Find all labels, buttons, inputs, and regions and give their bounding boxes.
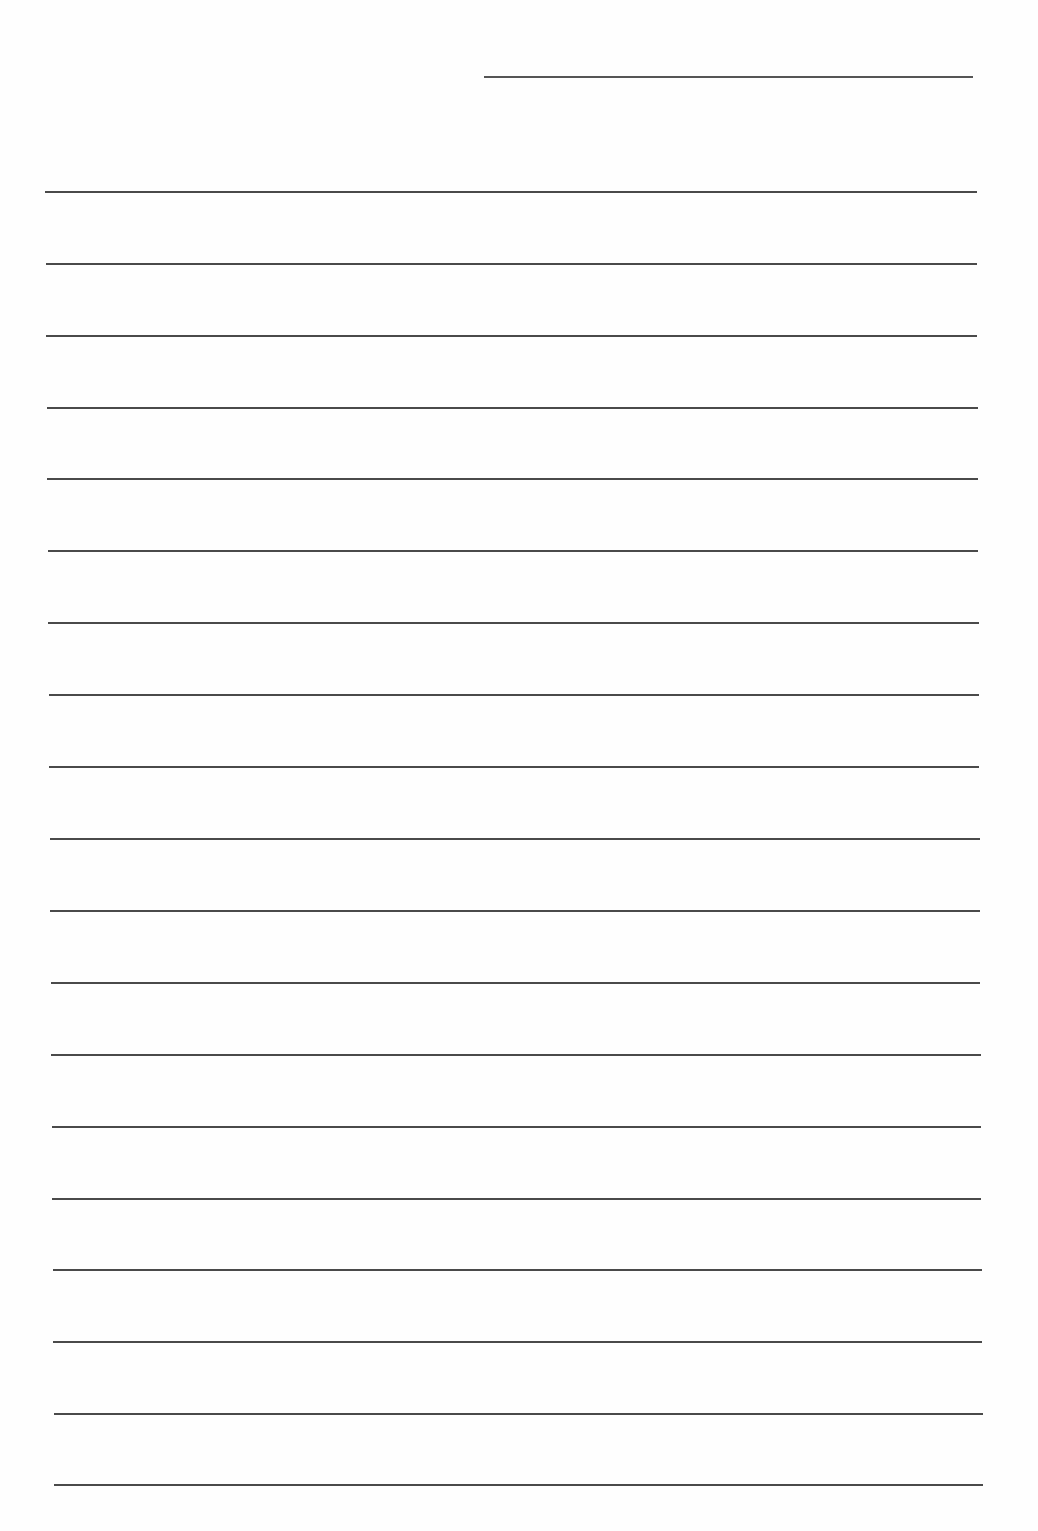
rule-line bbox=[50, 910, 980, 912]
rule-line bbox=[54, 1484, 983, 1486]
rule-line bbox=[53, 1269, 982, 1271]
rule-line bbox=[51, 982, 980, 984]
rule-line bbox=[48, 622, 979, 624]
rule-line bbox=[47, 407, 978, 409]
rule-line bbox=[49, 766, 979, 768]
rule-line bbox=[52, 1198, 981, 1200]
header-rule-line bbox=[484, 76, 973, 78]
rule-line bbox=[50, 838, 980, 840]
rule-line bbox=[54, 1413, 983, 1415]
rule-line bbox=[46, 263, 977, 265]
rule-line bbox=[51, 1054, 981, 1056]
rule-line bbox=[49, 694, 979, 696]
rule-line bbox=[48, 550, 978, 552]
rule-line bbox=[52, 1126, 981, 1128]
rule-line bbox=[45, 191, 977, 193]
rule-line bbox=[47, 478, 978, 480]
rule-line bbox=[53, 1341, 982, 1343]
rule-line bbox=[46, 335, 977, 337]
ruled-paper-page bbox=[0, 0, 1038, 1531]
